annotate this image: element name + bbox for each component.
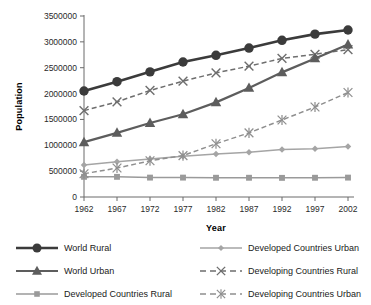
data-point-triangle — [343, 39, 353, 48]
legend-item-label: World Urban — [60, 266, 114, 276]
legend-item-label: Developing Countries Rural — [244, 266, 358, 276]
data-point-square — [147, 175, 153, 181]
data-point-asterisk — [245, 128, 254, 138]
x-axis-tick-label: 1967 — [108, 204, 127, 214]
x-axis-tick-label: 1962 — [75, 204, 94, 214]
data-point-x — [113, 97, 122, 106]
legend-item-world-rural[interactable]: World Rural — [0, 236, 186, 259]
chart-plot-area: 0500000100000015000002000000250000030000… — [0, 0, 371, 236]
x-axis-title: Year — [206, 223, 226, 233]
legend-item-label: Developed Countries Rural — [60, 289, 172, 299]
data-point-diamond — [218, 244, 224, 250]
x-axis-tick-label: 1982 — [207, 204, 226, 214]
data-point-square — [34, 291, 40, 297]
y-axis-tick-label: 1000000 — [44, 140, 77, 150]
legend-item-developed-countries-urban[interactable]: Developed Countries Urban — [186, 236, 371, 259]
data-point-circle — [244, 43, 253, 52]
legend-item-developed-countries-rural[interactable]: Developed Countries Rural — [0, 282, 186, 305]
y-axis-tick-label: 1500000 — [44, 114, 77, 124]
population-line-chart: 0500000100000015000002000000250000030000… — [0, 0, 371, 305]
x-axis-tick-label: 1992 — [273, 204, 292, 214]
data-point-circle — [277, 36, 286, 45]
x-axis-tick-label: 2002 — [339, 204, 358, 214]
legend-key-x-icon — [198, 265, 244, 277]
legend-item-label: Developing Countries Urban — [244, 289, 361, 299]
data-point-asterisk — [311, 102, 320, 112]
data-point-asterisk — [212, 139, 221, 149]
y-axis-tick-label: 2500000 — [44, 63, 77, 73]
legend-item-world-urban[interactable]: World Urban — [0, 259, 186, 282]
data-point-circle — [145, 67, 154, 76]
chart-legend: World RuralDeveloped Countries UrbanWorl… — [0, 236, 371, 305]
data-point-diamond — [213, 151, 219, 157]
data-point-circle — [211, 51, 220, 60]
data-point-circle — [79, 86, 88, 95]
data-point-square — [180, 175, 186, 181]
data-point-square — [345, 175, 351, 181]
data-point-circle — [32, 243, 41, 252]
y-axis-tick-label: 0 — [72, 192, 77, 202]
data-point-diamond — [81, 162, 87, 168]
data-point-circle — [310, 29, 319, 38]
legend-key-square-icon — [14, 288, 60, 300]
y-axis-tick-label: 3500000 — [44, 11, 77, 21]
y-axis-tick-label: 500000 — [49, 166, 78, 176]
data-point-asterisk — [344, 88, 353, 98]
data-point-square — [312, 175, 318, 181]
data-point-diamond — [312, 145, 318, 151]
y-axis-tick-label: 3000000 — [44, 37, 77, 47]
legend-item-developing-countries-urban[interactable]: Developing Countries Urban — [186, 282, 371, 305]
data-point-x — [146, 86, 155, 95]
legend-item-label: Developed Countries Urban — [244, 243, 359, 253]
y-axis-title: Population — [14, 82, 24, 131]
legend-key-circle-icon — [14, 242, 60, 254]
y-axis-tick-label: 2000000 — [44, 89, 77, 99]
legend-item-developing-countries-rural[interactable]: Developing Countries Rural — [186, 259, 371, 282]
data-point-asterisk — [278, 115, 287, 125]
data-point-square — [114, 174, 120, 180]
x-axis-tick-label: 1997 — [306, 204, 325, 214]
legend-key-diamond-icon — [198, 242, 244, 254]
data-point-square — [213, 175, 219, 181]
legend-item-label: World Rural — [60, 243, 111, 253]
x-axis-tick-label: 1987 — [240, 204, 259, 214]
series-developed-countries-rural — [81, 174, 351, 181]
data-point-square — [279, 175, 285, 181]
data-point-circle — [178, 57, 187, 66]
data-point-square — [246, 175, 252, 181]
data-point-diamond — [345, 143, 351, 149]
x-axis-tick-label: 1977 — [174, 204, 193, 214]
data-point-circle — [112, 77, 121, 86]
data-point-circle — [343, 25, 352, 34]
data-point-diamond — [279, 146, 285, 152]
x-axis-tick-label: 1972 — [141, 204, 160, 214]
legend-key-triangle-icon — [14, 265, 60, 277]
data-point-diamond — [246, 149, 252, 155]
legend-key-asterisk-icon — [198, 288, 244, 300]
